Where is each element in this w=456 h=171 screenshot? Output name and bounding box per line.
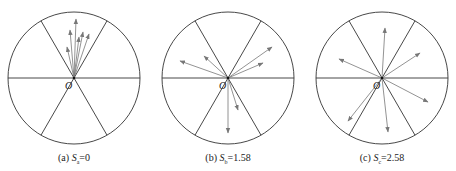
caption-value: =1.58 (228, 152, 251, 163)
panel-c: O (316, 12, 448, 144)
sector-diagrams: OOO (0, 0, 456, 171)
vector-arrow (382, 53, 420, 78)
vector-arrow (228, 78, 238, 110)
vector-arrow (204, 56, 228, 78)
panel-b: O (162, 12, 294, 144)
vector-arrow (339, 59, 382, 78)
origin-dot (381, 77, 384, 80)
caption-label: (b) (205, 152, 219, 163)
caption-b: (b) Sb=1.58 (205, 152, 250, 165)
origin-label: O (219, 80, 226, 91)
origin-dot (73, 77, 76, 80)
caption-a: (a) Sa=0 (58, 152, 90, 165)
vector-arrow (228, 47, 272, 78)
origin-label: O (65, 80, 72, 91)
caption-value: =0 (79, 152, 90, 163)
caption-label: (c) (360, 152, 374, 163)
caption-c: (c) Sc=2.58 (360, 152, 404, 165)
panel-a: O (8, 12, 140, 144)
origin-dot (227, 77, 230, 80)
vector-arrow (180, 61, 228, 78)
caption-value: =2.58 (381, 152, 404, 163)
vector-arrow (382, 28, 385, 78)
origin-label: O (373, 80, 380, 91)
caption-label: (a) (58, 152, 72, 163)
